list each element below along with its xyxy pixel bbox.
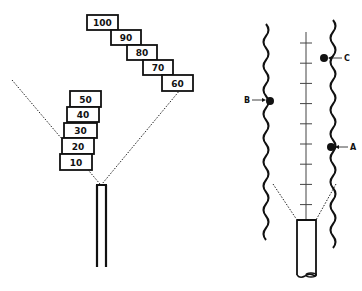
point-c-dot xyxy=(320,54,328,62)
left-wavy-line xyxy=(264,24,269,240)
number-box: 20 xyxy=(62,138,94,154)
center-axis xyxy=(300,32,312,220)
right-figure: B C A xyxy=(244,20,357,277)
number-boxes: 100908070605040302010 xyxy=(60,15,193,170)
left-figure: 100908070605040302010 xyxy=(12,15,193,267)
number-box-label: 50 xyxy=(79,95,92,105)
funnel-left-dotted xyxy=(273,184,297,220)
point-a-label: A xyxy=(350,143,357,152)
point-b-dot xyxy=(266,97,274,105)
point-b: B xyxy=(244,96,274,105)
number-box-label: 20 xyxy=(72,142,85,152)
funnel-right-dotted xyxy=(316,184,336,220)
number-box-label: 80 xyxy=(136,48,149,58)
number-box-label: 30 xyxy=(74,126,87,136)
number-box: 60 xyxy=(162,75,193,91)
pipette-tube xyxy=(297,220,316,277)
number-box: 30 xyxy=(64,123,97,138)
number-box-label: 60 xyxy=(171,79,184,89)
point-a: A xyxy=(327,143,357,152)
number-box-label: 10 xyxy=(70,158,83,168)
number-box: 100 xyxy=(87,15,118,30)
right-wavy-line xyxy=(331,20,336,248)
point-c: C xyxy=(320,54,350,63)
number-box: 50 xyxy=(70,91,101,107)
diagram-canvas: 100908070605040302010 xyxy=(0,0,362,291)
number-box: 40 xyxy=(67,107,99,122)
number-box-label: 70 xyxy=(152,63,165,73)
number-box-label: 100 xyxy=(93,18,112,28)
number-box: 90 xyxy=(111,30,141,45)
number-box: 70 xyxy=(143,60,173,75)
right-dotted-ray xyxy=(102,78,190,184)
tube xyxy=(96,185,107,267)
number-box-label: 40 xyxy=(77,110,90,120)
point-a-dot xyxy=(327,143,335,151)
point-c-label: C xyxy=(344,54,350,63)
point-b-label: B xyxy=(244,96,250,105)
number-box: 80 xyxy=(127,45,157,60)
number-box-label: 90 xyxy=(120,33,133,43)
number-box: 10 xyxy=(60,154,92,170)
